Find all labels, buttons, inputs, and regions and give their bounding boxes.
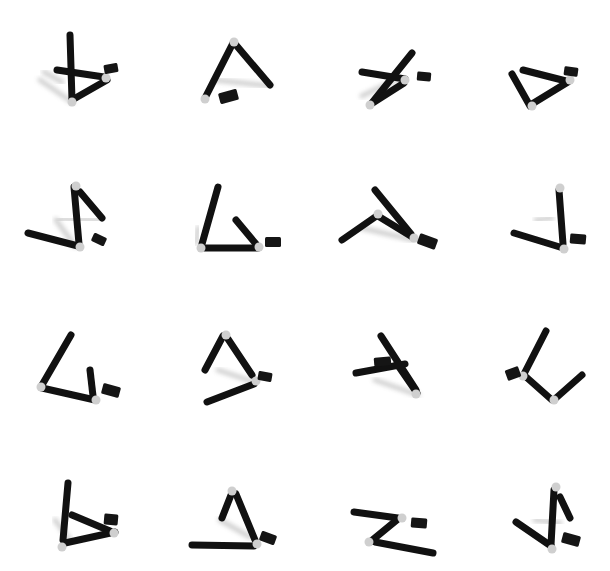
- joint: [365, 538, 374, 547]
- box: [374, 356, 392, 366]
- joint: [76, 243, 85, 252]
- figure-grid-canvas: [0, 0, 610, 571]
- joint: [37, 383, 46, 392]
- rod: [192, 545, 254, 546]
- joint: [560, 245, 569, 254]
- joint: [197, 244, 206, 253]
- joint: [566, 76, 575, 85]
- joint: [548, 545, 557, 554]
- joint: [398, 514, 407, 523]
- joint: [401, 76, 410, 85]
- rod: [74, 187, 79, 244]
- box: [570, 233, 587, 244]
- joint: [228, 487, 237, 496]
- joint: [556, 184, 565, 193]
- shadow: [535, 520, 560, 523]
- joint: [374, 210, 383, 219]
- shadow: [196, 228, 198, 243]
- rod: [70, 35, 72, 100]
- box: [417, 71, 432, 81]
- joint: [230, 38, 239, 47]
- box: [411, 517, 428, 528]
- joint: [68, 98, 77, 107]
- shadow: [536, 218, 552, 220]
- joint: [201, 95, 210, 104]
- joint: [410, 234, 419, 243]
- joint: [110, 529, 119, 538]
- rod: [551, 490, 554, 545]
- joint: [253, 540, 262, 549]
- joint: [550, 396, 559, 405]
- box: [104, 513, 119, 525]
- rod: [559, 190, 563, 244]
- joint: [552, 483, 561, 492]
- joint: [72, 182, 81, 191]
- joint: [58, 543, 67, 552]
- rod: [90, 370, 93, 396]
- joint: [366, 101, 375, 110]
- joint: [102, 74, 111, 83]
- box: [265, 237, 281, 247]
- joint: [92, 396, 101, 405]
- joint: [222, 331, 231, 340]
- joint: [528, 102, 537, 111]
- joint: [255, 243, 264, 252]
- joint: [412, 390, 421, 399]
- rod: [63, 483, 68, 540]
